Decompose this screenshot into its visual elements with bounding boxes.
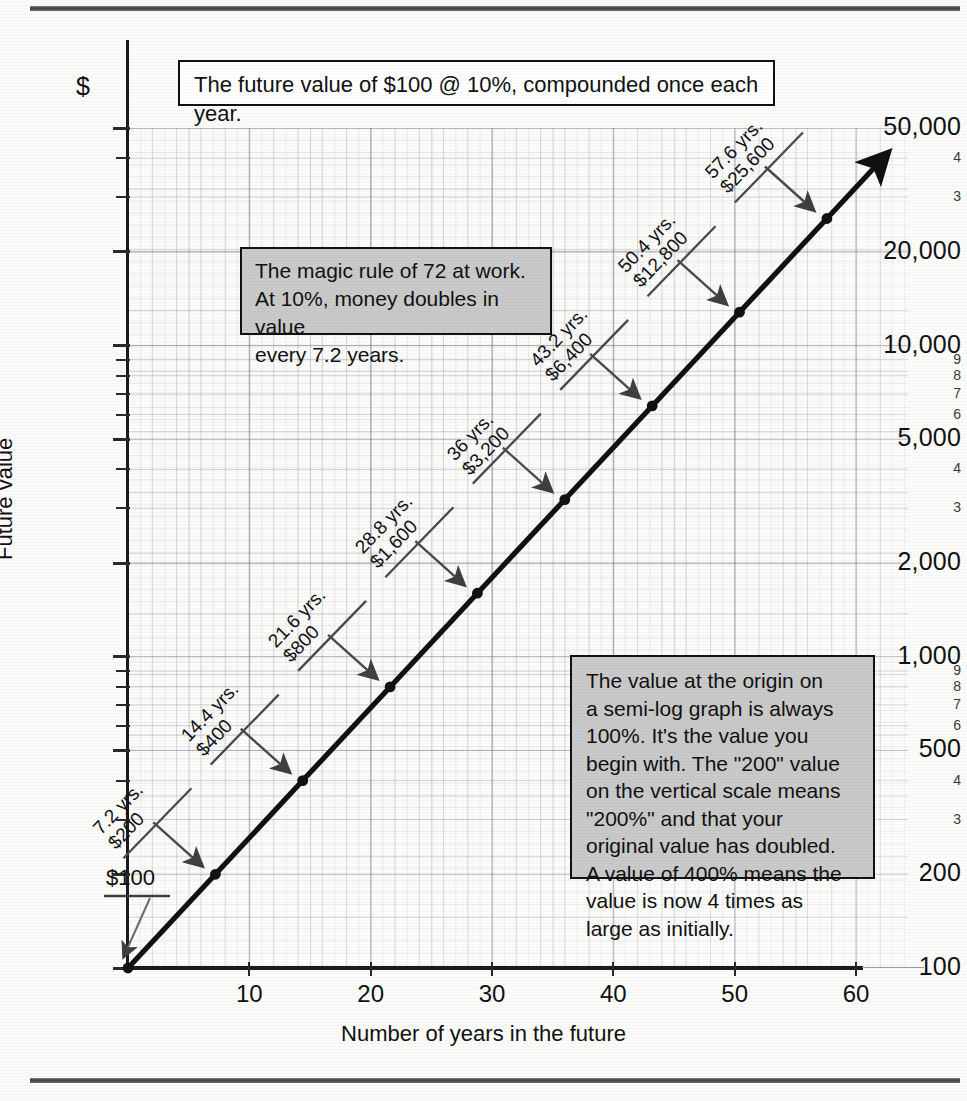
data-point — [210, 869, 221, 880]
data-point — [385, 682, 396, 693]
note-origin-value: The value at the origin on a semi-log gr… — [570, 655, 875, 879]
note-rule-of-72: The magic rule of 72 at work. At 10%, mo… — [240, 247, 552, 335]
data-point — [297, 775, 308, 786]
data-point — [647, 401, 658, 412]
chart-title-box: The future value of $100 @ 10%, compound… — [178, 60, 775, 106]
point-annotation-label: $100 — [106, 866, 155, 890]
data-overlay — [0, 0, 967, 1101]
data-point — [559, 494, 570, 505]
data-point — [472, 588, 483, 599]
data-point — [822, 213, 833, 224]
data-point — [123, 963, 134, 974]
data-point — [734, 307, 745, 318]
figure-page: 1002003450067891,0002,000345,000678910,0… — [0, 0, 967, 1101]
